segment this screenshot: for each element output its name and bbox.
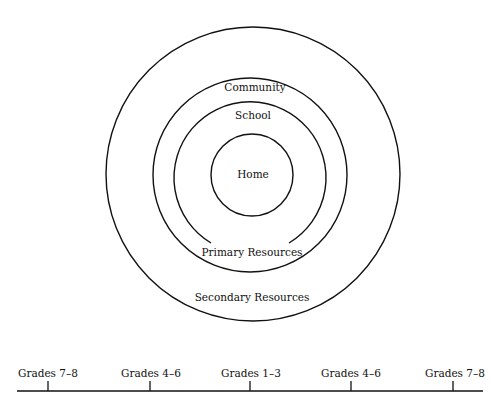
timeline-tick-4: Grades 4–6 [321, 367, 381, 391]
school-label: School [235, 109, 271, 121]
tick-label: Grades 1–3 [221, 367, 281, 379]
timeline-tick-1: Grades 7–8 [18, 367, 78, 391]
timeline-tick-2: Grades 4–6 [121, 367, 181, 391]
tick-label: Grades 7–8 [18, 367, 78, 379]
home-label: Home [237, 168, 269, 180]
timeline-tick-5: Grades 7–8 [425, 367, 485, 391]
timeline-tick-3: Grades 1–3 [221, 367, 281, 391]
primary-resources-label: Primary Resources [201, 246, 302, 258]
secondary-resources-label: Secondary Resources [195, 291, 310, 303]
tick-label: Grades 4–6 [321, 367, 381, 379]
tick-label: Grades 4–6 [121, 367, 181, 379]
resource-diagram: Community School Home Primary Resources … [0, 0, 500, 409]
tick-label: Grades 7–8 [425, 367, 485, 379]
community-label: Community [224, 81, 285, 93]
